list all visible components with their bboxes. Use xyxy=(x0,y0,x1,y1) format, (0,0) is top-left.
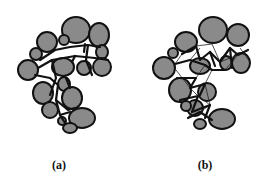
figure-canvas xyxy=(0,0,263,188)
grain xyxy=(199,17,227,43)
grain xyxy=(18,60,38,80)
panel-a-label: (a) xyxy=(52,158,66,173)
grain xyxy=(89,23,109,47)
grain xyxy=(181,101,191,111)
panel-b-grain-network xyxy=(153,17,250,129)
thick-bond-line xyxy=(84,44,85,52)
panel-a-grain-network xyxy=(18,17,111,133)
grain xyxy=(175,32,197,52)
grain xyxy=(227,24,249,46)
grain xyxy=(153,57,175,79)
grain xyxy=(30,48,42,60)
grain xyxy=(168,48,178,58)
grain xyxy=(42,102,58,118)
grain xyxy=(209,109,235,129)
thick-bond-line xyxy=(60,112,70,115)
grain xyxy=(59,35,69,45)
grain xyxy=(63,123,77,133)
panel-b-label: (b) xyxy=(198,158,213,173)
thin-bond-line xyxy=(196,44,212,46)
grain xyxy=(62,87,82,109)
grain xyxy=(194,119,206,129)
